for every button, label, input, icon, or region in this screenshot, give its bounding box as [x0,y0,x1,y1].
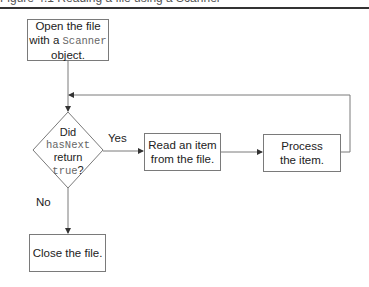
label-yes: Yes [108,132,127,144]
label-no: No [36,196,51,208]
decision-line4-code: true [52,165,77,177]
open-line1: Open the file [29,19,106,33]
node-process-item: Process the item. [263,134,341,172]
open-line2-prefix: with a [29,34,62,46]
open-line3: object. [29,48,106,62]
node-open-file: Open the file with a Scanner object. [27,19,109,61]
decision-line3: return [34,151,102,164]
read-line1: Read an item [148,138,216,152]
close-line1: Close the file. [33,246,103,260]
process-line2: the item. [280,153,324,167]
node-close-file: Close the file. [29,234,106,272]
node-decision-text: Did hasNext return true? [34,126,102,177]
process-line1: Process [280,139,324,153]
node-read-item: Read an item from the file. [144,133,221,171]
decision-line2-code: hasNext [34,139,102,152]
read-line2: from the file. [148,152,216,166]
open-line2-code: Scanner [63,35,107,47]
decision-line4-suffix: ? [78,164,84,176]
decision-line1: Did [34,126,102,139]
